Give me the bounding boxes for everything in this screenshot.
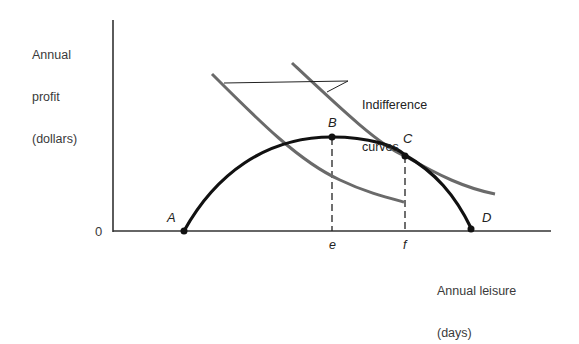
annotation-line2: curves xyxy=(362,140,427,154)
label-b: B xyxy=(328,115,337,130)
x-axis-label: Annual leisure (days) xyxy=(437,256,516,344)
annotation-pointer xyxy=(224,81,348,92)
origin-label: 0 xyxy=(95,225,102,239)
profit-curve xyxy=(184,137,471,231)
indifference-annotation: Indifference curves xyxy=(362,70,427,168)
y-axis-label-line3: (dollars) xyxy=(32,132,77,146)
label-c: C xyxy=(403,131,412,146)
y-axis-label-line1: Annual xyxy=(32,48,77,62)
tick-e: e xyxy=(329,238,336,252)
point-a xyxy=(181,228,188,235)
point-d xyxy=(468,226,475,233)
tick-f: f xyxy=(403,238,406,252)
y-axis-label: Annual profit (dollars) xyxy=(32,20,77,160)
x-axis-label-line1: Annual leisure xyxy=(437,284,516,298)
y-axis-label-line2: profit xyxy=(32,90,77,104)
label-a: A xyxy=(167,210,176,225)
label-d: D xyxy=(482,210,491,225)
point-b xyxy=(329,134,336,141)
x-axis-label-line2: (days) xyxy=(437,326,516,340)
annotation-line1: Indifference xyxy=(362,98,427,112)
